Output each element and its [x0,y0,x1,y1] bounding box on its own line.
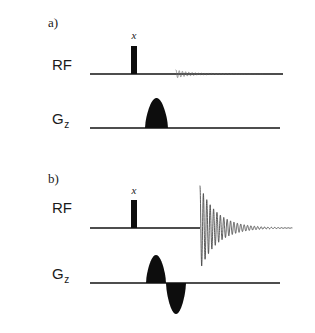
panel-a-gz-gradient-lobe-positive-0 [145,98,168,128]
panel-b-gz-label: Gz [52,265,69,285]
panel-a-gz-label: Gz [52,110,69,130]
panel-b-rf-pulse-phase-label: x [131,184,137,196]
panel-a-rf-pulse-phase-label: x [131,29,137,41]
panel-b-gz-gradient-lobe-negative-1 [166,283,186,314]
panel-b-rf-excitation-pulse [131,200,137,228]
panel-b-rf-label: RF [52,199,72,216]
pulse-sequence-canvas: a)RFxGzb)RFxGz [0,0,315,333]
panel-b-rf-fid-signal [200,186,292,266]
panel-b-gz-label-subscript: z [64,274,69,285]
panel-a-rf-excitation-pulse [131,46,137,74]
pulse-sequence-figure: a)RFxGzb)RFxGz [0,0,315,333]
panel-a-rf-label: RF [52,56,72,73]
panel-b-label: b) [48,171,59,186]
panel-b-gz-gradient-lobe-positive-0 [146,255,166,283]
panel-a-label: a) [48,15,58,30]
panel-a-gz-label-subscript: z [64,119,69,130]
